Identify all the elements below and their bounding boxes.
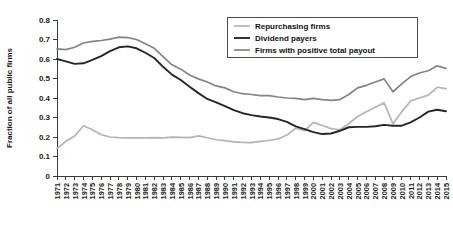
series-line-1 — [57, 46, 446, 134]
x-tick-label: 1979 — [124, 183, 133, 199]
legend-label-0: Repurchasing firms — [255, 22, 331, 31]
x-tick-label: 1985 — [177, 183, 186, 199]
legend-label-1: Dividend payers — [255, 34, 317, 43]
x-tick-label: 1981 — [141, 183, 150, 199]
x-tick-label: 1995 — [265, 183, 274, 199]
y-tick-label: 0.3 — [39, 113, 51, 122]
x-tick-label: 1978 — [115, 183, 124, 199]
x-tick-label: 1997 — [283, 183, 292, 199]
x-tick-label: 1973 — [71, 183, 80, 199]
x-tick-label: 2014 — [433, 182, 442, 199]
y-tick-label: 0.8 — [39, 16, 51, 25]
x-tick-label: 2012 — [415, 183, 424, 199]
x-tick-label: 1989 — [212, 183, 221, 199]
x-tick-label: 2004 — [345, 182, 354, 199]
x-tick-label: 1977 — [106, 183, 115, 199]
chart-container: Fraction of all public firms 00.10.20.30… — [0, 0, 453, 226]
x-tick-label: 2011 — [407, 183, 416, 199]
x-tick-label: 1972 — [62, 183, 71, 199]
x-tick-label: 2009 — [389, 183, 398, 199]
y-tick-label: 0.4 — [39, 94, 51, 103]
x-tick-label: 1980 — [133, 183, 142, 199]
x-tick-label: 1975 — [88, 183, 97, 199]
x-tick-label: 1986 — [186, 183, 195, 199]
y-tick-label: 0.1 — [39, 152, 51, 161]
x-tick-label: 1996 — [274, 183, 283, 199]
y-tick-label: 0.2 — [39, 133, 51, 142]
x-tick-label: 1983 — [159, 183, 168, 199]
legend-label-2: Firms with positive total payout — [255, 46, 375, 55]
y-tick-label: 0.6 — [39, 55, 51, 64]
x-tick-label: 1994 — [256, 182, 265, 199]
x-tick-label: 2005 — [354, 183, 363, 199]
x-tick-label: 1993 — [248, 183, 257, 199]
x-tick-label: 1976 — [97, 183, 106, 199]
x-tick-label: 2010 — [398, 183, 407, 199]
y-axis-ticks: 00.10.20.30.40.50.60.70.8 — [39, 16, 57, 181]
x-tick-label: 1971 — [53, 183, 62, 199]
series-line-0 — [57, 87, 446, 148]
x-tick-label: 1990 — [221, 183, 230, 199]
x-tick-label: 2006 — [362, 183, 371, 199]
x-tick-label: 1984 — [168, 182, 177, 199]
x-tick-label: 2008 — [380, 183, 389, 199]
y-tick-label: 0.7 — [39, 35, 51, 44]
x-tick-label: 1982 — [150, 183, 159, 199]
chart-legend: Repurchasing firmsDividend payersFirms w… — [227, 17, 417, 57]
y-tick-label: 0.5 — [39, 74, 51, 83]
x-tick-label: 1991 — [230, 183, 239, 199]
x-tick-label: 2007 — [371, 183, 380, 199]
x-tick-label: 2013 — [424, 183, 433, 199]
x-tick-label: 1999 — [301, 183, 310, 199]
x-tick-label: 1987 — [194, 183, 203, 199]
x-axis-ticks: 1971197219731974197519761977197819791980… — [53, 176, 451, 199]
y-tick-label: 0 — [46, 172, 51, 181]
y-axis-label: Fraction of all public firms — [5, 47, 14, 148]
x-tick-label: 1974 — [80, 182, 89, 199]
line-chart: Fraction of all public firms 00.10.20.30… — [0, 0, 453, 226]
x-tick-label: 2002 — [327, 183, 336, 199]
x-tick-label: 2000 — [309, 183, 318, 199]
x-tick-label: 2015 — [442, 183, 451, 199]
x-tick-label: 1992 — [239, 183, 248, 199]
x-tick-label: 2003 — [336, 183, 345, 199]
x-tick-label: 2001 — [318, 183, 327, 199]
y-axis-title: Fraction of all public firms — [5, 47, 14, 148]
x-tick-label: 1998 — [292, 183, 301, 199]
x-tick-label: 1988 — [203, 183, 212, 199]
